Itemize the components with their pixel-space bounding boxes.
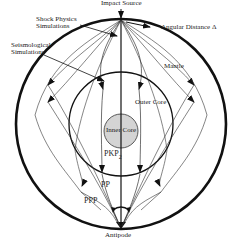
shock-physics-label: Shock Physics Simulations xyxy=(36,16,77,30)
inner-core-label: Inner Core xyxy=(106,127,136,134)
mantle-label: Mantle xyxy=(164,63,184,70)
earth-cross-section-diagram xyxy=(0,0,242,245)
seismological-leader xyxy=(44,55,104,81)
seismological-label: Seismological Simulations xyxy=(11,42,51,56)
ppp-label: PPP xyxy=(84,197,97,205)
pp-label: PP xyxy=(101,181,110,189)
angular-distance-label: Angular Distance Δ xyxy=(161,24,216,31)
impact-source-label: Impact Source xyxy=(101,0,142,7)
antipode-label: Antipode xyxy=(105,232,131,239)
pkp2-label: PKP2 xyxy=(104,150,122,160)
outer-core-label: Outer Core xyxy=(135,99,166,106)
